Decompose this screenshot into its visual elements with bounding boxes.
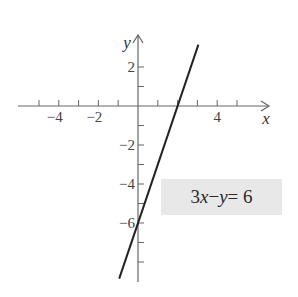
x-tick-label: −4: [47, 109, 63, 125]
equation-x: x: [200, 186, 208, 208]
y-tick-label: −2: [119, 137, 135, 153]
equation-rhs: = 6: [228, 186, 253, 208]
coordinate-plane: −4−242−2−4−6xy: [0, 0, 298, 297]
equation-coef: 3: [190, 186, 200, 208]
equation-y: y: [219, 186, 227, 208]
y-axis-label: y: [121, 33, 131, 52]
y-tick-label: −4: [119, 176, 135, 192]
x-tick-label: −2: [86, 109, 102, 125]
line-series: [119, 45, 198, 279]
y-tick-label: −6: [119, 215, 135, 231]
equation-minus: −: [208, 186, 219, 208]
graph: −4−242−2−4−6xy 3x − y = 6: [0, 0, 298, 297]
equation-label: 3x − y = 6: [161, 179, 282, 215]
x-tick-label: 4: [213, 109, 221, 125]
x-axis-label: x: [261, 109, 270, 128]
y-tick-label: 2: [128, 59, 136, 75]
